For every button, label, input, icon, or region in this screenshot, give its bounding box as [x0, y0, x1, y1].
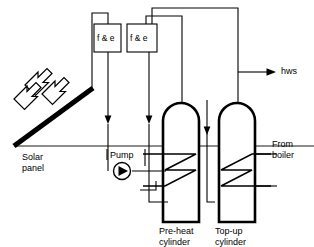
hws-outlet-label: hws — [281, 66, 297, 77]
pump-label: Pump — [110, 150, 134, 161]
diagram-linework — [0, 0, 314, 247]
feed-expansion-tank-2-label: f & e — [130, 33, 147, 44]
from-boiler-label: From boiler — [272, 139, 294, 160]
sun-ray-arrow-2 — [42, 78, 69, 105]
solar-panel-label: Solar panel — [22, 152, 44, 173]
sun-ray-arrows — [14, 69, 69, 110]
interspace-drop-arrowhead — [204, 127, 211, 136]
sun-ray-arrow-3 — [14, 83, 41, 110]
solar-hot-water-diagram: f & e f & e hws Solar panel Pump From bo… — [0, 0, 314, 247]
feed-expansion-tank-1-outlet-arrowhead — [105, 116, 112, 125]
interspace-drop-pipe — [207, 100, 215, 202]
topup-cylinder-label: Top-up cylinder — [215, 226, 246, 247]
preheat-cylinder-label: Pre-heat cylinder — [159, 226, 194, 247]
feed-expansion-tank-2-outlet-arrowhead — [146, 116, 153, 125]
hws-outlet-arrowhead — [267, 68, 277, 76]
feed-expansion-tank-1-label: f & e — [97, 33, 114, 44]
